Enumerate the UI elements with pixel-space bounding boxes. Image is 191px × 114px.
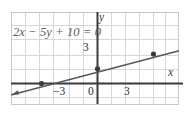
data-point-y-intercept — [95, 66, 100, 71]
data-point-x-intercept — [39, 81, 44, 86]
line-arrow-left — [11, 90, 19, 95]
equation-annotation: 2x − 5y + 10 = 0 — [13, 25, 101, 40]
graph-svg — [0, 0, 191, 114]
x-tick-label-neg3: −3 — [53, 85, 65, 97]
figure-container: 2x − 5y + 10 = 0 y x −3 0 3 3 — [0, 0, 191, 114]
x-tick-label-pos3: 3 — [124, 85, 130, 97]
y-tick-label-pos3: 3 — [83, 41, 89, 53]
x-axis-label: x — [168, 66, 173, 78]
x-tick-label-zero: 0 — [88, 85, 94, 97]
coordinate-graph: 2x − 5y + 10 = 0 y x −3 0 3 3 — [0, 0, 191, 114]
data-point-upper-right — [151, 51, 156, 56]
y-axis-label: y — [99, 11, 104, 23]
